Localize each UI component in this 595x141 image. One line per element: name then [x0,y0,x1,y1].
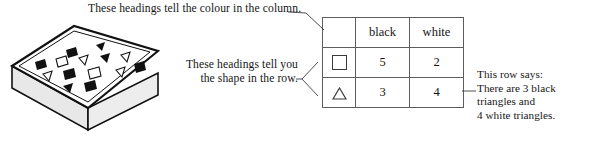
table-row: 3 4 [323,78,464,108]
cell-square-black: 5 [356,48,410,78]
row-header-triangle [323,78,356,108]
two-way-table-wrapper: black white 5 2 3 4 [322,17,464,108]
table-row: 5 2 [323,48,464,78]
cell-triangle-black: 3 [356,78,410,108]
table-corner-cell [323,18,356,48]
leader-bracket-row [302,62,318,96]
column-header-white: white [410,18,464,48]
box-of-shapes-illustration [8,18,168,138]
cell-square-white: 2 [410,48,464,78]
column-header-black: black [356,18,410,48]
figure-canvas: These headings tell the colour in the co… [0,0,595,141]
triangle-icon [332,87,347,100]
table-header-row: black white [323,18,464,48]
callout-row-heading: These headings tell you the shape in the… [163,58,298,86]
callout-row-explanation: This row says: There are 3 black triangl… [477,68,593,123]
cell-triangle-white: 4 [410,78,464,108]
row-header-square [323,48,356,78]
callout-column-heading: These headings tell the colour in the co… [88,2,301,16]
square-icon [332,55,347,70]
two-way-table: black white 5 2 3 4 [322,17,464,108]
